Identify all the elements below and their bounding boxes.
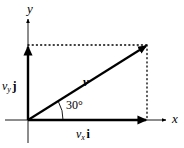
y-component-label: vyj bbox=[2, 80, 16, 94]
y-axis-label: y bbox=[27, 2, 33, 15]
x-component-subscript: x bbox=[81, 133, 85, 142]
x-unit-vector-label: i bbox=[86, 127, 89, 141]
x-component-label: vxi bbox=[76, 128, 90, 142]
angle-label: 30° bbox=[66, 99, 83, 111]
vector-diagram-canvas bbox=[0, 0, 184, 148]
x-axis-label: x bbox=[172, 112, 178, 125]
resultant-vector-label: v bbox=[83, 76, 89, 89]
vector-diagram-figure: y x vyj vxi v 30° bbox=[0, 0, 184, 148]
angle-arc bbox=[59, 102, 64, 120]
y-unit-vector-label: j bbox=[12, 79, 16, 93]
y-component-subscript: y bbox=[7, 85, 11, 94]
